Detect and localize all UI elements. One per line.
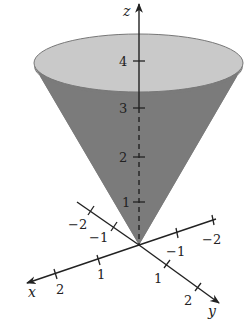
z-tick-label-4: 4 [119,54,127,69]
x-tick-label-neg1: −1 [89,230,108,245]
x-tick-label-1: 1 [97,267,105,282]
y-tick-label-neg2: −2 [202,232,221,247]
y-tick-label-2: 2 [184,293,192,308]
cone-diagram: 1 2 3 4 z −2 −1 1 2 x −1 −2 1 2 y [0,0,245,323]
y-axis-label: y [207,303,217,319]
x-tick-label-neg2: −2 [68,217,87,232]
z-tick-label-1: 1 [122,195,130,210]
y-tick-label-neg1: −1 [166,244,185,259]
x-axis-label: x [28,284,36,300]
z-axis-label: z [122,3,131,19]
x-tick-label-2: 2 [56,282,64,297]
z-tick-label-2: 2 [119,150,127,165]
z-tick-label-3: 3 [119,101,127,116]
x-axis-positive [27,245,139,283]
y-tick-label-1: 1 [154,271,162,286]
